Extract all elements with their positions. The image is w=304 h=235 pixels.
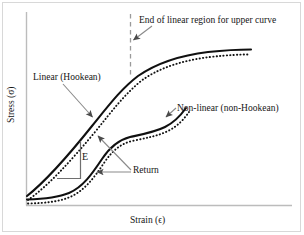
lower-curve-return-dotted: [28, 112, 189, 204]
annotation-linear-hookean: Linear (Hookean): [33, 73, 101, 83]
annotation-return: Return: [133, 166, 159, 176]
nonlinear-leader-arrow: [166, 108, 176, 117]
x-axis-label: Strain (ϵ): [130, 216, 165, 226]
annotation-non-linear-non-hookean: Non-linear (non-Hookean): [177, 104, 279, 114]
end-linear-leader-arrow: [134, 26, 153, 40]
hookean-leader-arrow: [63, 84, 93, 117]
plot-canvas: [0, 0, 304, 235]
modulus-slope-triangle: [57, 141, 81, 179]
annotation-end-of-linear-region: End of linear region for upper curve: [139, 16, 276, 26]
y-axis-label: Stress (σ): [7, 75, 17, 135]
annotation-modulus-E: E: [82, 152, 88, 162]
stress-strain-figure: End of linear region for upper curve Lin…: [0, 0, 304, 235]
lower-curve-loading-solid: [27, 108, 186, 200]
